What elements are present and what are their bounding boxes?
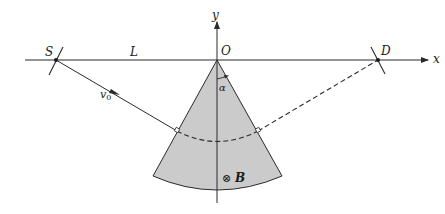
velocity-label: v0: [100, 88, 111, 102]
diagram-canvas: S L O D x y α v0 ⊗ B: [0, 0, 445, 214]
origin-label: O: [221, 44, 231, 58]
detector-label: D: [380, 44, 391, 58]
field-direction-icon: ⊗: [222, 172, 231, 185]
y-axis-label: y: [211, 8, 219, 22]
velocity-label-subscript: 0: [106, 93, 111, 102]
x-axis-label: x: [433, 52, 440, 66]
magnetic-sector-diagram: S L O D x y α v0 ⊗ B: [0, 0, 445, 214]
incoming-trajectory: [56, 60, 177, 131]
outgoing-trajectory: [258, 60, 378, 131]
source-label: S: [45, 45, 53, 59]
field-label: B: [234, 171, 245, 185]
distance-label: L: [129, 45, 138, 59]
source-point: [54, 58, 58, 62]
angle-label: α: [219, 82, 226, 93]
detector-point: [376, 58, 380, 62]
